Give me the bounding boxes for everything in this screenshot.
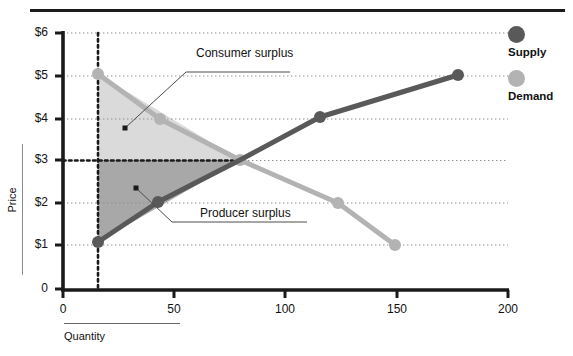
legend-label-supply: Supply: [508, 46, 572, 58]
x-tick-label-200: 200: [488, 302, 528, 316]
chart-root: $6 $5 $4 $3 $2 $1 0 0 50 100 150 200 Pri…: [0, 0, 573, 356]
y-axis-title-wrap: Price: [0, 150, 26, 270]
x-tick-label-150: 150: [377, 302, 417, 316]
legend-label-demand: Demand: [508, 90, 572, 102]
annotation-consumer-surplus: Consumer surplus: [196, 46, 293, 60]
x-tick-label-0: 0: [43, 302, 83, 316]
legend-item-supply[interactable]: Supply: [508, 26, 572, 58]
y-tick-label-6: $6: [14, 25, 48, 39]
legend-swatch-demand-icon: [508, 70, 525, 87]
x-tick-label-50: 50: [154, 302, 194, 316]
y-tick-label-5: $5: [14, 68, 48, 82]
y-axis-title: Price: [6, 160, 18, 240]
x-axis-title: Quantity: [64, 330, 105, 342]
x-tick-label-100: 100: [265, 302, 305, 316]
x-axis-title-rule: [64, 323, 180, 324]
annotation-producer-surplus: Producer surplus: [200, 206, 291, 220]
y-tick-label-4: $4: [14, 111, 48, 125]
legend-item-demand[interactable]: Demand: [508, 70, 572, 102]
chart-legend: Supply Demand: [508, 26, 572, 114]
legend-swatch-supply-icon: [508, 26, 525, 43]
y-tick-label-0: 0: [14, 281, 48, 295]
